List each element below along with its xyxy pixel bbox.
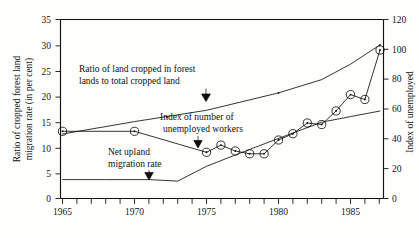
data-point-1985: [346, 91, 354, 99]
left-axis-tick-labels: 0 5 10 15 20 25 30 35: [42, 15, 52, 204]
right-tick-label-40: 40: [392, 134, 402, 144]
right-tick-label-100: 100: [392, 45, 407, 55]
chart-figure: 0 5 10 15 20 25 30 35 0 20 40 60 80 100 …: [0, 0, 419, 238]
x-axis-tick-labels: 1965 1970 1975 1980 1985: [53, 207, 360, 217]
series-ratio-marker-1980: [278, 92, 280, 94]
right-axis-ticks: [384, 20, 389, 199]
right-axis-title: Index of unemployed: [405, 71, 415, 153]
left-tick-label-20: 20: [42, 92, 52, 102]
axes-frame: [61, 20, 384, 199]
data-point-1984: [332, 107, 340, 115]
left-tick-label-25: 25: [42, 67, 52, 77]
annotation-net-upland: Net upland migration rate: [108, 147, 162, 180]
annotation-unemployed-index-line1: Index of number of: [160, 112, 234, 122]
right-tick-label-60: 60: [392, 104, 402, 114]
x-axis-minor-ticks: [63, 199, 380, 204]
annotation-ratio-cropped-line1: Ratio of land cropped in forest: [79, 64, 196, 74]
left-tick-label-15: 15: [42, 118, 52, 128]
data-point-1977: [231, 147, 239, 155]
annotation-unemployed-index-arrow-down-icon: [194, 136, 202, 148]
left-tick-label-30: 30: [42, 41, 52, 51]
data-point-1986: [361, 95, 369, 103]
right-tick-label-0: 0: [392, 194, 397, 204]
right-tick-label-80: 80: [392, 74, 402, 84]
annotation-ratio-cropped: Ratio of land cropped in forest lands to…: [79, 64, 210, 102]
x-tick-label-1965: 1965: [53, 207, 72, 217]
annotation-net-upland-line1: Net upland: [108, 147, 150, 157]
annotation-net-upland-line2: migration rate: [108, 159, 162, 169]
data-point-1976: [217, 141, 225, 149]
right-tick-label-120: 120: [392, 15, 407, 25]
left-axis-ticks: [56, 20, 61, 199]
x-tick-label-1980: 1980: [269, 207, 288, 217]
left-tick-label-10: 10: [42, 144, 52, 154]
right-tick-label-20: 20: [392, 164, 402, 174]
annotation-net-upland-arrow-down-icon: [145, 170, 153, 180]
left-tick-label-5: 5: [46, 169, 51, 179]
x-tick-label-1975: 1975: [197, 207, 216, 217]
left-tick-label-0: 0: [46, 194, 51, 204]
annotation-unemployed-index-line2: unemployed workers: [163, 124, 243, 134]
annotation-ratio-cropped-arrow-down-icon: [202, 89, 211, 102]
data-point-1987: [376, 46, 384, 54]
left-axis-title-line1: Ratio of cropped forest land: [12, 55, 22, 162]
x-tick-label-1985: 1985: [341, 207, 360, 217]
left-tick-label-35: 35: [42, 15, 52, 25]
x-tick-label-1970: 1970: [125, 207, 144, 217]
data-point-1980: [274, 136, 282, 144]
data-point-1975: [202, 148, 210, 156]
left-axis-title-line2: migration rate (in per cent): [24, 58, 35, 160]
chart-canvas: 0 5 10 15 20 25 30 35 0 20 40 60 80 100 …: [0, 0, 419, 238]
annotation-ratio-cropped-line2: lands to total cropped land: [79, 76, 180, 86]
